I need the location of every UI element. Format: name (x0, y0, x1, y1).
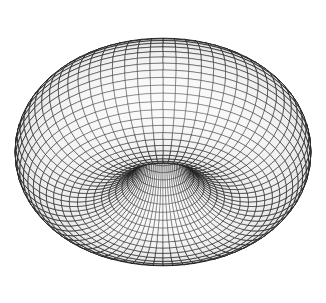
torus-mesh (15, 38, 311, 266)
torus-wireframe-figure (0, 0, 326, 303)
